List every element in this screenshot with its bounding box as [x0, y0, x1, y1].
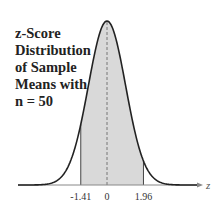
shaded-region — [81, 21, 144, 185]
tick-label-zero: 0 — [105, 191, 110, 202]
tick-label-right: 1.96 — [135, 191, 153, 202]
tick-label-left: -1.41 — [70, 191, 91, 202]
normal-curve-chart: -1.41 0 1.96 z — [0, 0, 217, 208]
axis-arrow-icon — [197, 183, 203, 188]
x-axis-label: z — [205, 179, 211, 191]
